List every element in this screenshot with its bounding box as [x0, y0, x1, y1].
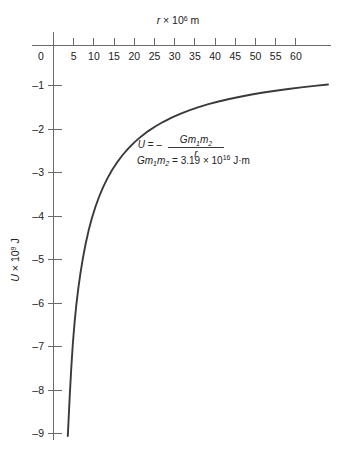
svg-text:r × 106 m: r × 106 m [157, 14, 200, 26]
x-tick-label: 5 [71, 50, 77, 62]
potential-energy-curve [68, 85, 328, 437]
x-axis-title: r × 106 m [157, 14, 200, 26]
x-tick-label: 35 [189, 50, 201, 62]
x-tick-label: 15 [108, 50, 120, 62]
figure-container: 0 5 10 15 20 25 30 35 40 45 50 55 60 –1 … [0, 0, 341, 469]
equation-annotation: U = – Gm1m2 r Gm1m2 = 3.19 × 1016 J·m [137, 134, 250, 167]
x-tick-label: 30 [169, 50, 181, 62]
y-tick-label: –8 [32, 384, 44, 396]
x-tick-label: 60 [290, 50, 302, 62]
y-tick-label: –3 [32, 166, 44, 178]
x-axis-tick-labels: 0 5 10 15 20 25 30 35 40 45 50 55 60 [38, 50, 302, 62]
y-tick-label: –6 [32, 297, 44, 309]
equation-numerator: Gm1m2 [180, 134, 212, 147]
x-tick-label: 0 [38, 50, 44, 62]
y-axis-ticks [48, 86, 62, 434]
x-tick-label: 55 [270, 50, 282, 62]
y-tick-label: –7 [32, 340, 44, 352]
x-axis-ticks [74, 38, 296, 45]
x-tick-label: 50 [250, 50, 262, 62]
x-tick-label: 10 [88, 50, 100, 62]
x-tick-label: 25 [149, 50, 161, 62]
y-tick-label: –2 [32, 123, 44, 135]
y-tick-label: –9 [32, 427, 44, 439]
y-tick-label: –4 [32, 210, 44, 222]
x-tick-label: 40 [209, 50, 221, 62]
x-tick-label: 45 [229, 50, 241, 62]
y-tick-label: –5 [32, 253, 44, 265]
y-tick-label: –1 [32, 79, 44, 91]
y-axis-title: U × 109 J [9, 238, 21, 281]
svg-text:U × 109 J: U × 109 J [9, 238, 21, 281]
gravitational-potential-energy-chart: 0 5 10 15 20 25 30 35 40 45 50 55 60 –1 … [0, 0, 341, 469]
equation-constant-line: Gm1m2 = 3.19 × 1016 J·m [137, 154, 250, 167]
equation-equals: = – [148, 139, 163, 150]
x-tick-label: 20 [128, 50, 140, 62]
y-axis-tick-labels: –1 –2 –3 –4 –5 –6 –7 –8 –9 [32, 79, 44, 439]
svg-text:U = –: U = – [138, 139, 163, 150]
